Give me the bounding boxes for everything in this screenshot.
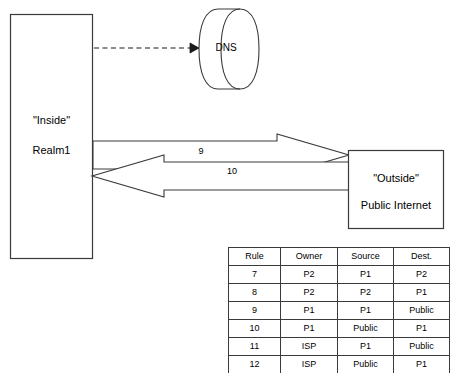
rules-table-body: 7P2P1P28P2P2P19P1P1Public10P1PublicP111I… [229,266,450,373]
table-cell: P1 [338,338,394,356]
table-row: 8P2P2P1 [229,284,450,302]
table-row: 9P1P1Public [229,302,450,320]
table-cell: 12 [229,356,281,373]
dns-cylinder-shape[interactable] [199,9,259,89]
rules-table-header-rule: Rule [229,248,281,266]
table-cell: P1 [338,302,394,320]
table-cell: P1 [394,356,450,373]
table-cell: Public [338,320,394,338]
table-cell: P1 [338,266,394,284]
table-cell: P2 [281,284,338,302]
rules-table-header-owner: Owner [281,248,338,266]
table-cell: Public [338,356,394,373]
table-cell: P1 [281,320,338,338]
table-cell: 11 [229,338,281,356]
table-cell: P1 [281,302,338,320]
rules-table-header-row: Rule Owner Source Dest. [229,248,450,266]
table-row: 12ISPPublicP1 [229,356,450,373]
rules-table: Rule Owner Source Dest. 7P2P1P28P2P2P19P… [228,247,450,373]
table-cell: Public [394,338,450,356]
table-cell: ISP [281,356,338,373]
table-cell: P1 [394,320,450,338]
diagram-canvas: "Inside" Realm1 DNS "Outside" Public Int… [0,0,459,373]
dns-query-arrowhead [190,43,199,53]
table-cell: 10 [229,320,281,338]
table-cell: Public [394,302,450,320]
outside-internet-box-shape[interactable] [349,151,444,229]
table-row: 10P1PublicP1 [229,320,450,338]
table-cell: P2 [394,266,450,284]
table-cell: 7 [229,266,281,284]
table-cell: 9 [229,302,281,320]
table-cell: P2 [338,284,394,302]
table-cell: 8 [229,284,281,302]
table-cell: ISP [281,338,338,356]
rules-table-header-dest: Dest. [394,248,450,266]
inside-realm-box-shape[interactable] [11,15,93,259]
table-cell: P1 [394,284,450,302]
rules-table-header-source: Source [338,248,394,266]
table-row: 7P2P1P2 [229,266,450,284]
table-cell: P2 [281,266,338,284]
table-row: 11ISPP1Public [229,338,450,356]
